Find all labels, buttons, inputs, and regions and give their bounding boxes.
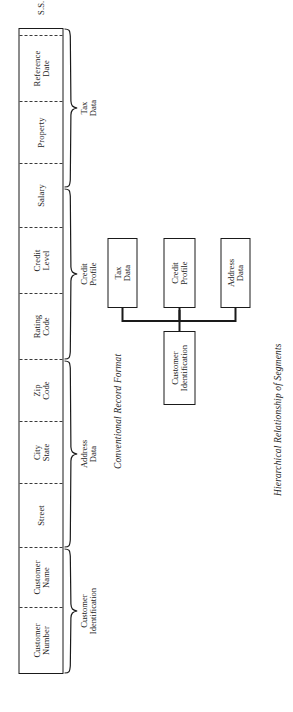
tree-node-address-data: Address Data bbox=[220, 238, 250, 308]
hierarchy-tree: Customer Identification Tax Data Credit … bbox=[0, 0, 293, 712]
node-line: Data bbox=[235, 259, 244, 287]
caption-hierarchical-relationship-of-segments: Hierarchical Relationship of Segments bbox=[272, 343, 282, 496]
tree-connector-tax bbox=[121, 307, 123, 322]
tree-connector-credit bbox=[178, 307, 180, 322]
tree-node-credit-profile: Credit Profile bbox=[163, 238, 195, 308]
tree-connector-address bbox=[234, 307, 236, 322]
tree-node-customer-identification: Customer Identification bbox=[163, 331, 195, 405]
node-line: Profile bbox=[179, 261, 188, 284]
node-line: Data bbox=[122, 265, 131, 281]
figure-canvas: Customer Number Customer Name Street Cit… bbox=[0, 0, 293, 712]
node-line: Identification bbox=[179, 345, 188, 391]
tree-node-tax-data: Tax Data bbox=[107, 238, 137, 308]
